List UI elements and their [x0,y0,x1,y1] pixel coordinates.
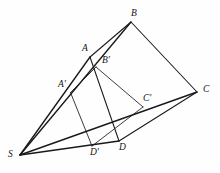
quad-ABCD-side-BC [131,22,197,92]
geometry-figure: B A B' A' C' C D' D S [0,0,220,173]
vertex-label-C: C [203,85,209,95]
vertex-label-A-prime: A' [58,80,66,90]
quad-ApBpCpDp-side-DpAp [71,93,93,147]
geometry-canvas [0,0,220,173]
vertex-label-A: A [82,44,88,54]
vertex-label-S: S [8,150,13,160]
vertex-label-C-prime: C' [143,94,151,104]
projection-ray-S-to-A [20,57,90,155]
vertex-label-D-prime: D' [90,148,99,158]
vertex-label-D: D [119,143,126,153]
quad-ApBpCpDp-side-BpCp [96,67,143,107]
vertex-label-B: B [131,9,137,19]
projection-ray-S-to-D [20,141,119,155]
vertex-label-B-prime: B' [102,56,110,66]
segment-group [20,22,197,155]
quad-ABCD-side-AB [90,22,131,57]
